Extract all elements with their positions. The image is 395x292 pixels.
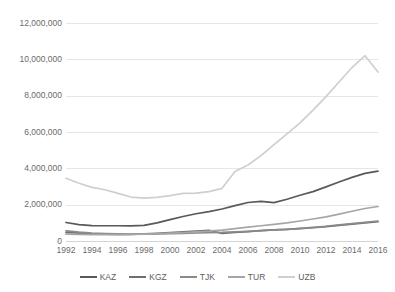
x-tick-label: 1998 (135, 245, 154, 256)
legend-swatch-icon (228, 276, 245, 278)
x-tick-label: 2014 (343, 245, 362, 256)
x-tick-label: 2000 (161, 245, 180, 256)
x-tick-label: 1996 (109, 245, 128, 256)
y-tick-label: 0 (0, 237, 62, 246)
x-tick-label: 2006 (239, 245, 258, 256)
legend-swatch-icon (180, 276, 197, 278)
y-tick-label: 6,000,000 (0, 128, 62, 137)
y-tick-label: 10,000,000 (0, 55, 62, 64)
x-axis: 1992199419961998200020022004200620082010… (66, 245, 378, 259)
plot-area (66, 23, 378, 241)
series-line-tjk (66, 221, 378, 234)
series-line-uzb (66, 56, 378, 198)
legend-item-uzb[interactable]: UZB (278, 272, 315, 282)
series-line-tur (66, 206, 378, 234)
x-tick-label: 1994 (83, 245, 102, 256)
legend-item-kaz[interactable]: KAZ (80, 272, 117, 282)
series-line-kaz (66, 171, 378, 226)
legend-swatch-icon (80, 276, 97, 278)
x-tick-label: 2004 (213, 245, 232, 256)
x-tick-label: 2002 (187, 245, 206, 256)
chart-legend: KAZKGZTJKTURUZB (0, 269, 395, 285)
x-tick-label: 2008 (265, 245, 284, 256)
x-tick-label: 2016 (369, 245, 388, 256)
x-tick-label: 2012 (317, 245, 336, 256)
line-chart: 12,000,00010,000,0008,000,0006,000,0004,… (0, 0, 395, 292)
x-tick-label: 2010 (291, 245, 310, 256)
legend-item-tjk[interactable]: TJK (180, 272, 215, 282)
legend-item-tur[interactable]: TUR (228, 272, 265, 282)
legend-swatch-icon (278, 276, 295, 278)
y-tick-label: 12,000,000 (0, 19, 62, 28)
series-lines (66, 23, 378, 241)
legend-label: UZB (298, 272, 315, 282)
legend-label: KGZ (149, 272, 166, 282)
gridline (66, 241, 378, 242)
legend-swatch-icon (129, 276, 146, 278)
x-tick-label: 1992 (57, 245, 76, 256)
legend-item-kgz[interactable]: KGZ (129, 272, 166, 282)
y-tick-label: 4,000,000 (0, 164, 62, 173)
legend-label: KAZ (100, 272, 117, 282)
y-axis: 12,000,00010,000,0008,000,0006,000,0004,… (0, 0, 62, 292)
y-tick-label: 2,000,000 (0, 200, 62, 209)
legend-label: TUR (248, 272, 265, 282)
y-tick-label: 8,000,000 (0, 91, 62, 100)
legend-label: TJK (200, 272, 215, 282)
